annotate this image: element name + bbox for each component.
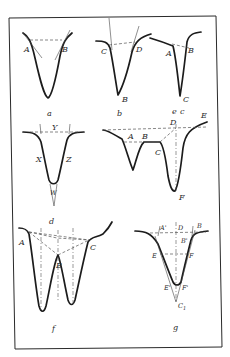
panel-a: A B a xyxy=(23,30,72,118)
label-d-Z: Z xyxy=(65,155,72,164)
label-b-D: D xyxy=(135,45,143,54)
label-b-C: C xyxy=(101,47,107,56)
caption-a: a xyxy=(47,109,52,118)
panel-c-curve xyxy=(150,32,201,96)
label-g-D: D xyxy=(177,224,184,232)
panel-d-tick-right xyxy=(69,124,70,134)
label-e-F: F xyxy=(178,193,185,202)
baseline-methods-figure: A B a C D B b A B C c Y X Z W d xyxy=(0,0,230,357)
caption-e: e xyxy=(172,107,177,116)
label-a-A: A xyxy=(23,45,30,54)
label-f-A: A xyxy=(18,238,25,247)
panel-c: A B C c xyxy=(150,32,201,116)
caption-d: d xyxy=(49,217,54,226)
panel-f-line-AB xyxy=(29,232,58,255)
label-f-C: C xyxy=(90,243,96,252)
label-c-A: A xyxy=(165,49,172,58)
label-g-F: F xyxy=(188,252,194,260)
label-a-B: B xyxy=(61,45,68,54)
label-e-E: E xyxy=(200,111,207,120)
panel-g-curve xyxy=(135,231,208,285)
panel-g: A' D B B' E F E' F' C 1 g xyxy=(135,222,208,332)
caption-g: g xyxy=(173,323,178,332)
panel-f: A B C f xyxy=(18,222,112,333)
label-g-E: E xyxy=(151,252,157,260)
label-g-B-prime: B' xyxy=(180,237,188,245)
panel-b-baseline xyxy=(109,42,135,45)
panel-b-curve xyxy=(96,34,151,95)
label-e-C: C xyxy=(155,148,161,157)
caption-b: b xyxy=(117,109,122,118)
figure-frame xyxy=(9,16,222,349)
label-e-A: A xyxy=(127,132,134,141)
label-b-B: B xyxy=(121,95,128,104)
caption-f: f xyxy=(51,324,57,333)
label-e-D: D xyxy=(169,118,177,127)
label-g-E-prime: E' xyxy=(163,284,171,292)
label-f-B: B xyxy=(55,261,62,270)
panel-d-tick-left xyxy=(40,124,41,134)
panel-f-line-BC xyxy=(58,240,89,255)
caption-c: c xyxy=(180,107,185,116)
label-c-C: C xyxy=(183,95,189,104)
label-g-B: B xyxy=(196,222,202,230)
panel-e-connector xyxy=(160,128,176,142)
label-d-W: W xyxy=(50,189,58,197)
panel-g-tick-b xyxy=(192,226,193,236)
panel-d-curve xyxy=(23,132,84,184)
label-e-B: B xyxy=(141,132,148,141)
label-c-B: B xyxy=(187,46,194,55)
panel-g-tangent-left xyxy=(155,236,176,302)
panel-e: D E A B C F e xyxy=(103,107,207,202)
label-g-C-subscript: 1 xyxy=(183,305,186,311)
label-d-X: X xyxy=(35,155,42,164)
panel-d: Y X Z W d xyxy=(23,123,84,226)
label-g-A-prime: A' xyxy=(159,224,167,232)
panel-b: C D B b xyxy=(96,18,151,118)
label-d-Y: Y xyxy=(52,123,58,132)
label-g-F-prime: F' xyxy=(181,284,189,292)
